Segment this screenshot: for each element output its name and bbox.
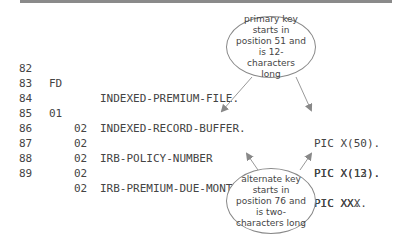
primary-key-callout-text: primary key starts in position 51 and is… (236, 14, 306, 80)
alternate-key-callout: alternate key starts in position 76 and … (226, 168, 316, 234)
callout-arrows (0, 0, 397, 248)
primary-key-callout: primary key starts in position 51 and is… (226, 16, 316, 78)
alternate-key-callout-text: alternate key starts in position 76 and … (235, 174, 307, 229)
